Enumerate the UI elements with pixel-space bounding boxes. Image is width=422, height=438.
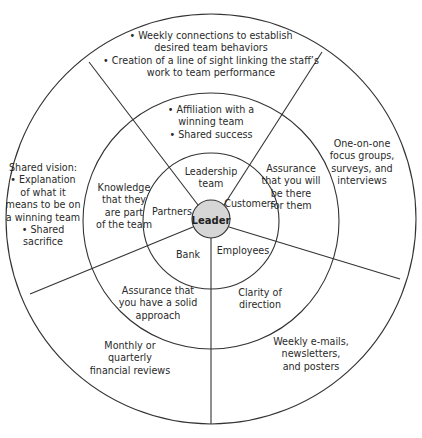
outer-label-customers: One-on-one focus groups, surveys, and in… — [330, 138, 395, 188]
middle-label-leadership-team: • Affiliation with a winning team • Shar… — [168, 104, 254, 141]
inner-label-bank: Bank — [176, 249, 200, 261]
middle-label-partners: Knowledge that they are part of the team — [96, 182, 152, 232]
outer-label-bank: Monthly or quarterly financial reviews — [90, 340, 170, 377]
inner-label-employees: Employees — [217, 245, 270, 257]
middle-label-employees: Clarity of direction — [238, 287, 282, 312]
outer-label-partners: Shared vision: • Explanation of what it … — [6, 162, 81, 249]
middle-label-bank: Assurance that you have a solid approach — [119, 285, 197, 322]
inner-label-partners: Partners — [152, 206, 192, 218]
leader-label: Leader — [192, 215, 231, 226]
middle-label-customers: Assurance that you will be there for the… — [261, 163, 320, 213]
outer-label-leadership-team: • Weekly connections to establish desire… — [103, 30, 319, 80]
inner-label-leadership-team: Leadership team — [185, 166, 238, 191]
outer-label-employees: Weekly e-mails, newsletters, and posters — [273, 336, 349, 373]
